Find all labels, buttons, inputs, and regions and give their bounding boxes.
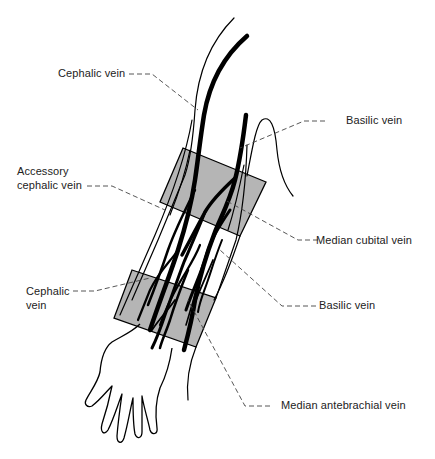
label-median-cubital-vein: Median cubital vein — [316, 233, 412, 247]
label-cephalic-vein-upper: Cephalic vein — [58, 66, 125, 80]
label-accessory-line2: cephalic vein — [17, 178, 82, 192]
leader-lines — [73, 74, 325, 406]
label-accessory-cephalic-vein: Accessory cephalic vein — [17, 164, 82, 192]
leader-basilic-lower — [220, 250, 316, 306]
hand-outline — [85, 324, 172, 442]
leader-accessory-cephalic — [87, 186, 165, 210]
label-basilic-vein-lower: Basilic vein — [319, 298, 375, 312]
label-median-antebrachial-vein: Median antebrachial vein — [281, 398, 406, 412]
label-cephalic-lower-line2: vein — [26, 298, 70, 312]
label-accessory-line1: Accessory — [17, 164, 82, 178]
label-basilic-vein-upper: Basilic vein — [346, 113, 402, 127]
vein-diagram: Cephalic vein Basilic vein Accessory cep… — [0, 0, 435, 459]
leader-cephalic-upper — [129, 74, 198, 110]
label-cephalic-vein-lower: Cephalic vein — [26, 284, 70, 312]
label-cephalic-lower-line1: Cephalic — [26, 284, 70, 298]
